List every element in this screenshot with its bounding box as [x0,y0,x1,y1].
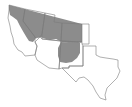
range-area-new-mexico [58,42,80,63]
state-oklahoma-panhandle [82,24,89,44]
range-map [0,0,132,107]
range-area-north [9,5,82,44]
state-arizona [35,37,61,69]
